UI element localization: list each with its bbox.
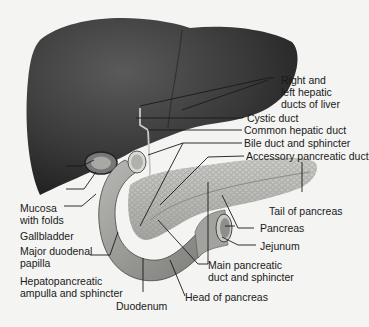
label-pancreas: Pancreas <box>260 222 304 234</box>
label-line: Right and <box>281 74 340 86</box>
label-line: Mucosa <box>20 202 64 214</box>
label-line: Hepatopancreatic <box>20 275 123 287</box>
label-bile-duct: Bile duct and sphincter <box>244 137 350 149</box>
label-mucosa: Mucosa with folds <box>20 202 64 226</box>
label-tail-of-pancreas: Tail of pancreas <box>269 205 343 217</box>
jejunum <box>195 210 232 258</box>
label-major-duodenal-papilla: Major duodenal papilla <box>20 245 92 269</box>
label-cystic-duct: Cystic duct <box>247 112 298 124</box>
label-right-left-hepatic-ducts: Right and left hepatic ducts of liver <box>281 74 340 110</box>
label-common-hepatic-duct: Common hepatic duct <box>244 124 346 136</box>
label-hepatopancreatic-ampulla: Hepatopancreatic ampulla and sphincter <box>20 275 123 299</box>
label-gallbladder: Gallbladder <box>20 230 74 242</box>
label-line: ampulla and sphincter <box>20 287 123 299</box>
label-accessory-pancreatic-duct: Accessory pancreatic duct <box>246 150 369 162</box>
label-jejunum: Jejunum <box>260 240 300 252</box>
label-line: ducts of liver <box>281 98 340 110</box>
label-line: left hepatic <box>281 86 340 98</box>
label-main-pancreatic-duct: Main pancreatic duct and sphincter <box>208 259 294 283</box>
label-line: with folds <box>20 214 64 226</box>
label-head-of-pancreas: Head of pancreas <box>185 291 268 303</box>
label-line: Major duodenal <box>20 245 92 257</box>
label-line: papilla <box>20 257 92 269</box>
label-duodenum: Duodenum <box>116 300 167 312</box>
label-line: Main pancreatic <box>208 259 294 271</box>
label-line: duct and sphincter <box>208 271 294 283</box>
